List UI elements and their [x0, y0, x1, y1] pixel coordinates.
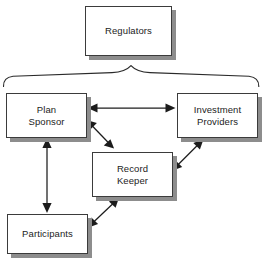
- node-plan-sponsor[interactable]: Plan Sponsor: [6, 93, 87, 138]
- arrow-investment-providers-record-keeper: [172, 139, 204, 170]
- node-record-keeper[interactable]: Record Keeper: [92, 152, 173, 197]
- node-regulators-label: Regulators: [105, 25, 152, 37]
- brace-connector: [3, 66, 258, 87]
- arrow-participants-record-keeper: [88, 198, 119, 228]
- relationship-diagram: Regulators Plan Sponsor Investment Provi…: [0, 0, 264, 265]
- arrow-plan-sponsor-record-keeper: [87, 120, 115, 148]
- node-investment-providers[interactable]: Investment Providers: [177, 93, 258, 138]
- node-record-keeper-label: Record Keeper: [117, 163, 148, 187]
- node-investment-providers-label: Investment Providers: [194, 104, 241, 128]
- arrow-plan-sponsor-participants: [42, 138, 51, 213]
- arrow-plan-sponsor-investment-providers: [88, 103, 176, 112]
- node-plan-sponsor-label: Plan Sponsor: [28, 104, 64, 128]
- node-participants[interactable]: Participants: [7, 214, 88, 254]
- node-regulators[interactable]: Regulators: [85, 6, 172, 56]
- node-participants-label: Participants: [22, 228, 73, 240]
